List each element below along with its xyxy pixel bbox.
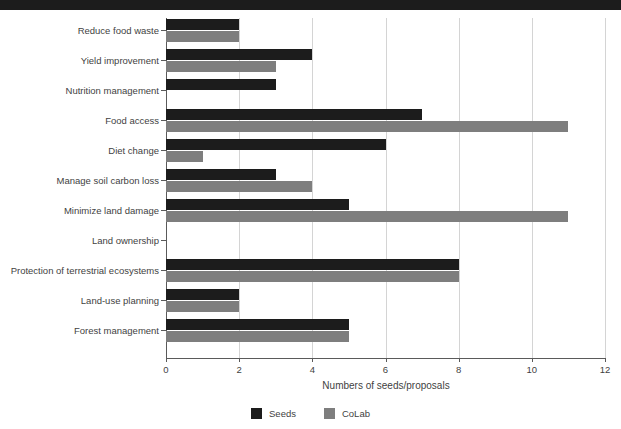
- y-axis-tick: [161, 210, 166, 211]
- x-axis-tick-label: 0: [163, 364, 168, 375]
- bar-seeds: [166, 289, 239, 300]
- x-axis-tick-label: 4: [310, 364, 315, 375]
- y-axis-tick: [161, 270, 166, 271]
- bar-group: [166, 288, 605, 318]
- y-axis-label: Land-use planning: [3, 295, 159, 306]
- bar-group: [166, 258, 605, 288]
- y-axis-tick: [161, 120, 166, 121]
- bar-colab: [166, 151, 203, 162]
- y-axis-label: Diet change: [3, 145, 159, 156]
- y-axis-tick: [161, 90, 166, 91]
- bar-colab: [166, 331, 349, 342]
- bar-colab: [166, 31, 239, 42]
- y-axis-tick: [161, 60, 166, 61]
- bar-colab: [166, 181, 312, 192]
- y-axis-category-labels: Reduce food wasteYield improvementNutrit…: [0, 18, 159, 358]
- bar-colab: [166, 121, 568, 132]
- bar-group: [166, 198, 605, 228]
- x-axis-tick-mark: [459, 358, 460, 362]
- x-axis-tick-mark: [166, 358, 167, 362]
- gridline-12: [605, 18, 606, 358]
- y-axis-tick: [161, 30, 166, 31]
- bar-colab: [166, 301, 239, 312]
- top-black-banner: [0, 0, 621, 10]
- y-axis-label: Forest management: [3, 325, 159, 336]
- legend-item-seeds[interactable]: Seeds: [251, 408, 296, 419]
- x-axis-tick-label: 6: [383, 364, 388, 375]
- y-axis-tick: [161, 180, 166, 181]
- bar-group: [166, 48, 605, 78]
- chart-legend: SeedsCoLab: [0, 408, 621, 419]
- legend-label: CoLab: [342, 408, 370, 419]
- bar-colab: [166, 211, 568, 222]
- legend-item-colab[interactable]: CoLab: [324, 408, 370, 419]
- x-axis-tick-label: 10: [527, 364, 538, 375]
- y-axis-tick: [161, 150, 166, 151]
- y-axis-label: Protection of terrestrial ecosystems: [3, 265, 159, 276]
- x-axis-tick-mark: [605, 358, 606, 362]
- y-axis-label: Minimize land damage: [3, 205, 159, 216]
- x-axis-tick-mark: [386, 358, 387, 362]
- y-axis-label: Reduce food waste: [3, 25, 159, 36]
- bar-group: [166, 18, 605, 48]
- legend-swatch-seeds: [251, 408, 262, 419]
- y-axis-label: Nutrition management: [3, 85, 159, 96]
- x-axis-tick-label: 2: [237, 364, 242, 375]
- bar-group: [166, 78, 605, 108]
- bar-seeds: [166, 319, 349, 330]
- y-axis-label: Food access: [3, 115, 159, 126]
- y-axis-tick: [161, 300, 166, 301]
- bar-colab: [166, 271, 459, 282]
- x-axis-tick-mark: [532, 358, 533, 362]
- legend-swatch-colab: [324, 408, 335, 419]
- bar-group: [166, 228, 605, 258]
- bar-seeds: [166, 169, 276, 180]
- y-axis-label: Manage soil carbon loss: [3, 175, 159, 186]
- y-axis-label: Land ownership: [3, 235, 159, 246]
- legend-label: Seeds: [269, 408, 296, 419]
- y-axis-tick: [161, 330, 166, 331]
- bar-seeds: [166, 109, 422, 120]
- y-axis-label: Yield improvement: [3, 55, 159, 66]
- bar-group: [166, 108, 605, 138]
- bar-seeds: [166, 199, 349, 210]
- bar-seeds: [166, 139, 386, 150]
- bar-group: [166, 138, 605, 168]
- bar-group: [166, 168, 605, 198]
- plot-area: [166, 18, 605, 358]
- bar-group: [166, 318, 605, 348]
- bar-seeds: [166, 79, 276, 90]
- bar-colab: [166, 61, 276, 72]
- bar-seeds: [166, 259, 459, 270]
- x-axis-tick-mark: [239, 358, 240, 362]
- bar-seeds: [166, 49, 312, 60]
- x-axis-tick-label: 8: [456, 364, 461, 375]
- bar-seeds: [166, 19, 239, 30]
- bar-chart: Reduce food wasteYield improvementNutrit…: [0, 10, 621, 429]
- y-axis-tick: [161, 240, 166, 241]
- x-axis-title: Numbers of seeds/proposals: [166, 380, 606, 391]
- x-axis-tick-mark: [312, 358, 313, 362]
- x-axis-tick-label: 12: [600, 364, 611, 375]
